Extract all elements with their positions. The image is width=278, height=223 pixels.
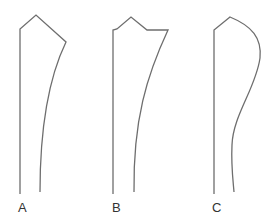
panel-label-a: A	[18, 201, 27, 214]
pattern-outlines-figure	[0, 0, 278, 223]
panel-label-b: B	[112, 201, 121, 214]
panel-label-c: C	[212, 201, 221, 214]
outline-c	[214, 17, 260, 194]
outline-b	[113, 17, 168, 194]
outline-a	[20, 15, 66, 194]
